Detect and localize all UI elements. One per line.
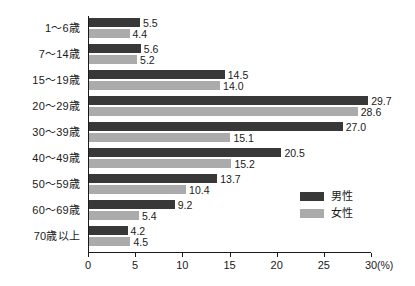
bar-value-label: 4.2 — [128, 226, 146, 236]
x-tick-label: 25 — [318, 259, 330, 271]
bar-female — [88, 237, 130, 246]
y-axis-line — [88, 16, 89, 253]
bar-male — [88, 174, 217, 183]
x-tick-label: 20 — [271, 259, 283, 271]
bar-male — [88, 18, 140, 27]
x-tick-mark — [324, 253, 325, 257]
bar-value-label: 14.5 — [225, 70, 248, 80]
bar-value-label: 9.2 — [175, 200, 193, 210]
category-label: 15〜19歳 — [0, 75, 80, 86]
bar-value-label: 27.0 — [343, 122, 366, 132]
bar-male — [88, 122, 343, 131]
x-tick-mark — [371, 253, 372, 257]
bar-male — [88, 70, 225, 79]
bar-group: 13.710.4 — [88, 174, 371, 196]
bar-value-label: 10.4 — [186, 185, 209, 195]
x-tick-label: 0 — [85, 259, 91, 271]
x-tick-mark — [88, 253, 89, 257]
x-tick-mark — [277, 253, 278, 257]
legend-swatch — [300, 192, 324, 201]
bar-female — [88, 133, 230, 142]
bar-value-label: 4.5 — [130, 237, 148, 247]
bar-female — [88, 81, 220, 90]
category-label: 30〜39歳 — [0, 127, 80, 138]
category-label: 1〜6歳 — [0, 23, 80, 34]
bar-group: 5.54.4 — [88, 18, 371, 40]
bar-female — [88, 185, 186, 194]
bar-value-label: 15.1 — [230, 133, 253, 143]
bar-male — [88, 44, 141, 53]
x-tick-label: 30 — [365, 259, 377, 271]
bar-value-label: 5.5 — [140, 18, 158, 28]
legend-label: 女性 — [331, 207, 353, 220]
bar-group: 9.25.4 — [88, 200, 371, 222]
legend-swatch — [300, 209, 324, 218]
category-label: 70歳以上 — [0, 231, 80, 242]
bar-female — [88, 107, 358, 116]
bar-female — [88, 159, 231, 168]
bar-female — [88, 29, 130, 38]
bar-value-label: 14.0 — [220, 81, 243, 91]
category-label: 60〜69歳 — [0, 205, 80, 216]
bar-value-label: 29.7 — [368, 96, 391, 106]
category-label: 50〜59歳 — [0, 179, 80, 190]
category-axis-labels: 1〜6歳7〜14歳15〜19歳20〜29歳30〜39歳40〜49歳50〜59歳6… — [0, 18, 84, 252]
bar-value-label: 15.2 — [231, 159, 254, 169]
x-axis-unit-label: (%) — [377, 259, 393, 271]
x-tick-mark — [135, 253, 136, 257]
x-tick-label: 15 — [223, 259, 235, 271]
bar-value-label: 20.5 — [281, 148, 304, 158]
bar-value-label: 5.6 — [141, 44, 159, 54]
x-tick-mark — [182, 253, 183, 257]
bar-group: 27.015.1 — [88, 122, 371, 144]
bar-group: 4.24.5 — [88, 226, 371, 248]
plot-area: 5.54.45.65.214.514.029.728.627.015.120.5… — [88, 18, 371, 252]
bar-group: 14.514.0 — [88, 70, 371, 92]
category-label: 40〜49歳 — [0, 153, 80, 164]
x-tick-label: 10 — [176, 259, 188, 271]
bar-group: 29.728.6 — [88, 96, 371, 118]
bar-male — [88, 96, 368, 105]
x-tick-label: 5 — [132, 259, 138, 271]
bar-value-label: 5.4 — [139, 211, 157, 221]
bar-value-label: 4.4 — [130, 29, 148, 39]
bar-group: 20.515.2 — [88, 148, 371, 170]
bar-male — [88, 200, 175, 209]
bar-group: 5.65.2 — [88, 44, 371, 66]
bar-chart: 1〜6歳7〜14歳15〜19歳20〜29歳30〜39歳40〜49歳50〜59歳6… — [0, 0, 415, 286]
bar-value-label: 5.2 — [137, 55, 155, 65]
category-label: 20〜29歳 — [0, 101, 80, 112]
bar-male — [88, 226, 128, 235]
category-label: 7〜14歳 — [0, 49, 80, 60]
bar-value-label: 28.6 — [358, 107, 381, 117]
bar-female — [88, 55, 137, 64]
bar-value-label: 13.7 — [217, 174, 240, 184]
x-tick-mark — [230, 253, 231, 257]
bar-female — [88, 211, 139, 220]
legend-label: 男性 — [331, 190, 353, 203]
bar-male — [88, 148, 281, 157]
